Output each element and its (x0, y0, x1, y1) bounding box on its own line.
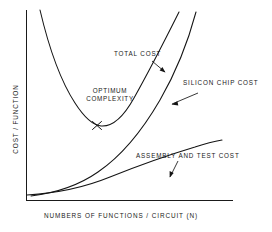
annotation-optimum-complexity: OPTIMUM COMPLEXITY (76, 87, 144, 103)
leader-total-cost (152, 61, 166, 73)
annotation-silicon-chip-cost: SILICON CHIP COST (183, 79, 259, 87)
x-axis-label: NUMBERS OF FUNCTIONS / CIRCUIT (N) (44, 212, 198, 220)
curve-silicon-chip-cost (31, 12, 196, 196)
y-axis-label: COST / FUNCTION (12, 67, 20, 171)
annotation-assembly-and-test-cost: ASSEMBLY AND TEST COST (136, 152, 240, 160)
figure-cost-per-function-chart: TOTAL COST SILICON CHIP COST OPTIMUM COM… (0, 0, 272, 232)
leader-assembly-and-test-cost (170, 161, 178, 178)
chart-canvas (0, 0, 272, 232)
annotation-total-cost: TOTAL COST (114, 50, 161, 58)
annotation-optimum-complexity-line1: OPTIMUM (76, 87, 144, 95)
annotation-optimum-complexity-line2: COMPLEXITY (76, 95, 144, 103)
curve-total-cost (40, 10, 179, 126)
leader-silicon-chip-cost (172, 93, 199, 106)
